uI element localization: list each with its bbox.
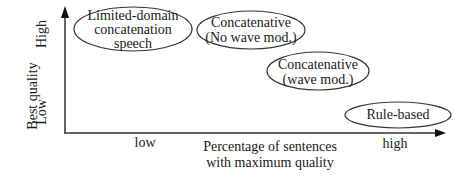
node-limited-domain-line2: concatenation bbox=[78, 22, 188, 37]
node-concat-wave-line1: Concatenative bbox=[263, 57, 373, 72]
node-limited-domain-line1: Limited-domain bbox=[78, 8, 188, 23]
x-axis-high-label: high bbox=[375, 136, 415, 151]
x-axis-title-line2: with maximum quality bbox=[185, 155, 355, 170]
x-axis-arrow-icon bbox=[435, 129, 446, 137]
x-axis-low-label: low bbox=[125, 135, 165, 150]
y-axis-low-label: Low bbox=[34, 92, 50, 132]
x-axis-title-line1: Percentage of sentences bbox=[185, 139, 355, 154]
node-concat-wave-line2: (wave mod.) bbox=[263, 72, 373, 87]
y-axis-high-label: High bbox=[34, 14, 50, 54]
node-limited-domain-line3: speech bbox=[78, 36, 188, 51]
node-concat-no-wave-line2: (No wave mod.) bbox=[196, 30, 306, 45]
node-concat-no-wave-line1: Concatenative bbox=[196, 15, 306, 30]
y-axis-arrow-icon bbox=[61, 6, 69, 18]
node-rule-based-line1: Rule-based bbox=[343, 107, 453, 122]
